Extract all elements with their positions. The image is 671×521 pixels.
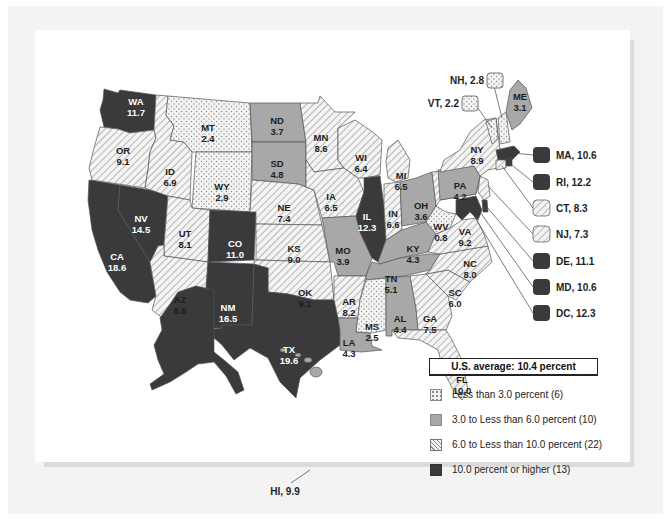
svg-text:NJ, 7.3: NJ, 7.3: [556, 229, 589, 240]
svg-text:CO11.0: CO11.0: [226, 238, 244, 260]
us-average-label: U.S. average: 10.4 percent: [451, 361, 576, 372]
svg-text:WI6.4: WI6.4: [354, 152, 368, 174]
legend: Less than 3.0 percent (6) 3.0 to Less th…: [430, 382, 602, 482]
legend-label: Less than 3.0 percent (6): [452, 389, 563, 400]
svg-text:VA9.2: VA9.2: [458, 226, 471, 248]
legend-label: 6.0 to Less than 10.0 percent (22): [452, 439, 602, 450]
svg-text:CT, 8.3: CT, 8.3: [556, 203, 588, 214]
svg-text:CA18.6: CA18.6: [108, 251, 127, 273]
svg-text:UT8.1: UT8.1: [178, 228, 192, 250]
svg-text:WV0.8: WV0.8: [433, 221, 449, 243]
svg-text:NC8.0: NC8.0: [463, 258, 477, 280]
svg-text:OH3.6: OH3.6: [414, 200, 428, 222]
svg-text:MS2.5: MS2.5: [365, 321, 379, 343]
svg-text:LA4.3: LA4.3: [342, 337, 355, 359]
svg-text:HI, 9.9: HI, 9.9: [270, 486, 300, 497]
hatched-swatch-icon: [430, 439, 442, 451]
svg-text:AK12.0: AK12.0: [182, 402, 201, 429]
state-CT[interactable]: [496, 160, 506, 170]
legend-label: 10.0 percent or higher (13): [452, 464, 570, 475]
svg-text:TN5.1: TN5.1: [384, 273, 398, 295]
swatch-DE: [533, 253, 550, 269]
state-NJ[interactable]: [478, 176, 490, 200]
state-DE[interactable]: [482, 200, 488, 212]
svg-text:NH, 2.8: NH, 2.8: [450, 75, 484, 86]
dotted-swatch-icon: [430, 389, 442, 401]
svg-text:NE7.4: NE7.4: [277, 202, 291, 224]
swatch-MA: [533, 147, 550, 163]
swatch-MD: [533, 279, 550, 295]
gray-swatch-icon: [430, 414, 442, 426]
svg-text:OK9.1: OK9.1: [298, 287, 312, 309]
svg-text:VT, 2.2: VT, 2.2: [428, 98, 460, 109]
legend-item-10plus: 10.0 percent or higher (13): [430, 457, 602, 482]
svg-text:MI6.5: MI6.5: [394, 170, 408, 192]
svg-text:SC6.0: SC6.0: [448, 287, 461, 309]
legend-item-3to6: 3.0 to Less than 6.0 percent (10): [430, 407, 602, 432]
svg-text:KS9.0: KS9.0: [287, 243, 300, 265]
svg-text:ND3.7: ND3.7: [270, 115, 284, 137]
svg-text:RI, 12.2: RI, 12.2: [556, 177, 591, 188]
svg-text:NM16.5: NM16.5: [219, 302, 238, 324]
svg-text:PA4.2: PA4.2: [453, 180, 466, 202]
svg-text:GA7.5: GA7.5: [423, 313, 437, 335]
svg-text:OR9.1: OR9.1: [116, 145, 130, 167]
svg-text:AL4.4: AL4.4: [393, 313, 407, 335]
svg-text:MA, 10.6: MA, 10.6: [556, 150, 597, 161]
swatch-NH: [487, 73, 503, 88]
swatch-VT: [462, 96, 478, 111]
svg-text:MO3.9: MO3.9: [335, 245, 350, 267]
dark-swatch-icon: [430, 464, 442, 476]
svg-text:MN8.6: MN8.6: [314, 132, 329, 154]
legend-item-6to10: 6.0 to Less than 10.0 percent (22): [430, 432, 602, 457]
svg-text:MD, 10.6: MD, 10.6: [556, 282, 597, 293]
svg-text:MT2.4: MT2.4: [201, 122, 215, 144]
swatch-CT: [533, 200, 550, 216]
svg-text:SD4.8: SD4.8: [270, 158, 283, 180]
svg-text:DC, 12.3: DC, 12.3: [556, 308, 596, 319]
svg-text:IN6.6: IN6.6: [386, 208, 399, 230]
swatch-DC: [533, 305, 550, 321]
legend-label: 3.0 to Less than 6.0 percent (10): [452, 414, 597, 425]
swatch-RI: [533, 174, 550, 190]
svg-text:KY4.3: KY4.3: [406, 243, 420, 265]
svg-text:ME3.1: ME3.1: [513, 91, 527, 113]
svg-text:DE, 11.1: DE, 11.1: [556, 256, 595, 267]
svg-text:AR8.2: AR8.2: [342, 296, 356, 318]
svg-text:ID6.9: ID6.9: [163, 166, 176, 188]
svg-text:AZ6.6: AZ6.6: [173, 294, 186, 316]
svg-text:WA11.7: WA11.7: [127, 96, 145, 118]
swatch-NJ: [533, 226, 550, 242]
svg-text:NY8.9: NY8.9: [470, 144, 484, 166]
legend-item-lt3: Less than 3.0 percent (6): [430, 382, 602, 407]
svg-text:WY2.9: WY2.9: [214, 181, 230, 203]
us-average-box: U.S. average: 10.4 percent: [429, 358, 598, 376]
